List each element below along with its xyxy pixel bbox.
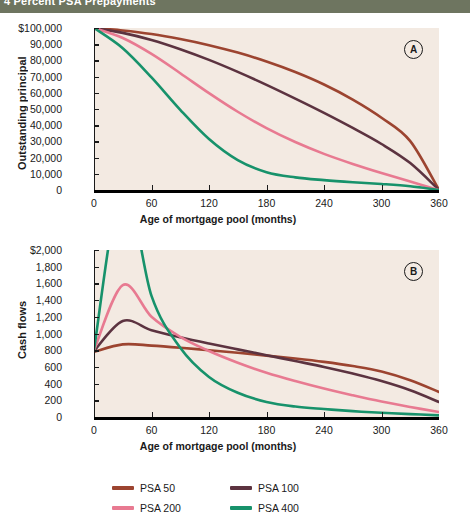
x-tick-label: 0: [91, 424, 97, 436]
legend-label: PSA 400: [258, 502, 299, 514]
series-line-psa-400: [94, 250, 439, 415]
x-axis-title-a: Age of mortgage pool (months): [0, 213, 453, 225]
series-line-psa-400: [94, 28, 439, 190]
legend-swatch-icon: [230, 486, 252, 489]
y-tick-label: 20,000: [30, 153, 62, 163]
x-axis-line: [94, 417, 439, 420]
y-tick-label: 800: [44, 345, 62, 355]
x-tick-label: 60: [146, 197, 158, 209]
legend-item-psa-200: PSA 200: [112, 498, 230, 518]
legend-swatch-icon: [112, 486, 134, 489]
banner-title: 4 Percent PSA Prepayments: [4, 0, 156, 7]
y-tick-label: 10,000: [30, 169, 62, 179]
x-tick-mark: [152, 185, 153, 190]
y-tick-label: 60,000: [30, 88, 62, 98]
y-tick-label: 1,000: [36, 329, 62, 339]
x-tick-mark: [382, 185, 383, 190]
y-tick-label: 400: [44, 379, 62, 389]
y-tick-label: 600: [44, 362, 62, 372]
x-tick-label: 240: [315, 197, 333, 209]
legend-label: PSA 200: [140, 502, 181, 514]
y-tick-label: 1,400: [36, 295, 62, 305]
chart-panel-b: Cash flows 02004006008001,0001,2001,4001…: [0, 236, 470, 461]
y-tick-label: 1,800: [36, 262, 62, 272]
x-tick-label: 240: [315, 424, 333, 436]
y-tick-label: $100,000: [18, 23, 62, 33]
plot-area-b: [94, 250, 439, 417]
y-tick-label: 50,000: [30, 104, 62, 114]
chart-legend: PSA 50 PSA 100 PSA 200 PSA 400: [112, 478, 358, 518]
x-tick-label: 60: [146, 424, 158, 436]
y-axis-title-a: Outstanding principal: [16, 38, 28, 188]
y-tick-label: $2,000: [30, 245, 62, 255]
y-tick-label: 0: [56, 412, 62, 422]
series-lines-a: [94, 28, 439, 190]
x-tick-mark: [324, 412, 325, 417]
legend-label: PSA 100: [258, 482, 299, 494]
plot-area-a: [94, 28, 439, 190]
series-line-psa-50: [94, 344, 439, 392]
series-line-psa-50: [94, 28, 439, 190]
series-line-psa-100: [94, 320, 439, 402]
x-axis-title-b: Age of mortgage pool (months): [0, 440, 453, 452]
series-line-psa-200: [94, 284, 439, 412]
x-tick-label: 300: [373, 197, 391, 209]
legend-item-psa-400: PSA 400: [230, 498, 358, 518]
series-line-psa-100: [94, 28, 439, 190]
x-tick-label: 180: [258, 424, 276, 436]
y-tick-label: 70,000: [30, 72, 62, 82]
x-tick-label: 360: [430, 197, 448, 209]
y-axis-line: [94, 250, 95, 417]
x-tick-label: 0: [91, 197, 97, 209]
legend-swatch-icon: [112, 506, 134, 509]
y-tick-label: 200: [44, 395, 62, 405]
x-tick-mark: [267, 412, 268, 417]
panel-badge-b: B: [404, 262, 423, 281]
x-tick-mark: [209, 185, 210, 190]
x-tick-mark: [209, 412, 210, 417]
y-tick-label: 1,200: [36, 312, 62, 322]
x-tick-label: 120: [200, 197, 218, 209]
legend-item-psa-100: PSA 100: [230, 478, 358, 498]
x-tick-mark: [152, 412, 153, 417]
series-lines-b: [94, 250, 439, 417]
y-axis-line: [94, 28, 95, 190]
section-banner: 4 Percent PSA Prepayments: [0, 0, 470, 13]
x-tick-mark: [267, 185, 268, 190]
y-tick-label: 80,000: [30, 55, 62, 65]
legend-label: PSA 50: [140, 482, 175, 494]
x-tick-label: 120: [200, 424, 218, 436]
legend-swatch-icon: [230, 506, 252, 509]
x-tick-label: 300: [373, 424, 391, 436]
y-axis-title-b: Cash flows: [16, 282, 28, 378]
series-line-psa-200: [94, 28, 439, 190]
x-tick-mark: [324, 185, 325, 190]
y-tick-label: 90,000: [30, 39, 62, 49]
figure-container: 4 Percent PSA Prepayments Outstanding pr…: [0, 0, 470, 525]
x-tick-mark: [382, 412, 383, 417]
y-tick-label: 40,000: [30, 120, 62, 130]
x-tick-label: 360: [430, 424, 448, 436]
x-axis-line: [94, 190, 439, 193]
y-tick-label: 30,000: [30, 136, 62, 146]
chart-panel-a: Outstanding principal 010,00020,00030,00…: [0, 16, 470, 236]
panel-badge-a: A: [404, 40, 423, 59]
y-tick-label: 1,600: [36, 278, 62, 288]
y-tick-label: 0: [56, 185, 62, 195]
x-tick-label: 180: [258, 197, 276, 209]
legend-item-psa-50: PSA 50: [112, 478, 230, 498]
